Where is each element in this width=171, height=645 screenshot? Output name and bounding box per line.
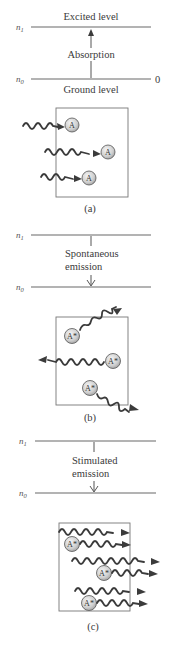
caption-c: (c) bbox=[87, 621, 99, 633]
photon-wave bbox=[97, 600, 139, 606]
photon-arrowhead-icon bbox=[149, 570, 158, 577]
stimulated-label: Stimulated bbox=[72, 455, 118, 466]
photon-wave bbox=[72, 558, 144, 564]
svg-text:A*: A* bbox=[67, 540, 77, 549]
n1-label: n1 bbox=[16, 230, 24, 241]
svg-text:A: A bbox=[86, 174, 92, 183]
svg-text:A*: A* bbox=[85, 384, 95, 393]
photon-arrowhead-icon bbox=[38, 356, 47, 363]
n0-label: n0 bbox=[16, 74, 25, 85]
n1-label: n1 bbox=[19, 436, 27, 447]
laser-processes-diagram: Excited level n1 Absorption n0 0 Ground … bbox=[0, 0, 171, 645]
photon-arrowhead-icon bbox=[121, 529, 130, 536]
photon-arrowhead-icon bbox=[93, 150, 101, 157]
photon-arrowhead-icon bbox=[137, 588, 146, 595]
svg-text:A*: A* bbox=[99, 569, 109, 578]
panel-b-spontaneous-emission: n1 Spontaneous emission n0 A* A* A* (b) bbox=[16, 230, 151, 424]
panel-c-stimulated-emission: n1 Stimulated emission n0 A* A* A* (c) bbox=[19, 436, 160, 633]
caption-b: (b) bbox=[84, 412, 97, 424]
photon-wave bbox=[45, 149, 89, 155]
svg-text:A*: A* bbox=[84, 599, 94, 608]
emission-label: emission bbox=[65, 261, 103, 272]
photon-arrowhead-icon bbox=[151, 558, 160, 565]
absorption-label: Absorption bbox=[67, 49, 115, 60]
n0-label: n0 bbox=[19, 488, 28, 499]
photon-wave bbox=[23, 123, 58, 129]
svg-text:A*: A* bbox=[108, 357, 118, 366]
photon-wave bbox=[97, 394, 129, 412]
photon-wave bbox=[75, 588, 129, 594]
photon-wave bbox=[59, 529, 113, 535]
photon-wave bbox=[80, 541, 122, 547]
photon-arrowhead-icon bbox=[129, 404, 139, 411]
photon-arrowhead-icon bbox=[57, 123, 65, 130]
svg-text:A*: A* bbox=[67, 332, 77, 341]
photon-arrowhead-icon bbox=[113, 308, 122, 315]
photon-arrowhead-icon bbox=[74, 175, 82, 182]
zero-energy-label: 0 bbox=[155, 74, 160, 85]
panel-a-absorption: Excited level n1 Absorption n0 0 Ground … bbox=[16, 11, 160, 215]
photon-arrowhead-icon bbox=[139, 600, 148, 607]
n0-label: n0 bbox=[16, 282, 25, 293]
ground-level-label: Ground level bbox=[63, 84, 118, 95]
photon-wave bbox=[41, 174, 73, 180]
svg-text:A: A bbox=[69, 121, 75, 130]
up-arrow-icon bbox=[88, 29, 94, 36]
spontaneous-label: Spontaneous bbox=[65, 248, 119, 259]
photon-wave bbox=[80, 307, 116, 330]
n1-label: n1 bbox=[16, 22, 24, 33]
svg-text:A: A bbox=[105, 148, 111, 157]
caption-a: (a) bbox=[84, 203, 96, 215]
excited-level-label: Excited level bbox=[63, 11, 118, 22]
emission-label: emission bbox=[72, 468, 110, 479]
